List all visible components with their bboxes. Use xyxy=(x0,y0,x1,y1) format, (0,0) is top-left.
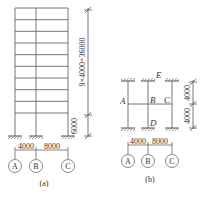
axis-label-b-A: A xyxy=(125,157,131,166)
structural-diagram: 9×4000=36000 6000 4000 8000 A B C (a) xyxy=(0,0,210,198)
height-label-b-lower: 4000 xyxy=(183,108,192,124)
span-label-a-2: 8000 xyxy=(44,142,60,151)
caption-a: (a) xyxy=(40,179,49,188)
axis-label-b-C: C xyxy=(169,157,174,166)
node-label-B: B xyxy=(150,95,156,105)
node-label-A: A xyxy=(119,96,126,106)
height-label-b-upper: 4000 xyxy=(183,85,192,101)
node-label-D: D xyxy=(149,118,157,128)
axis-label-b-B: B xyxy=(145,157,150,166)
axis-label-a-A: A xyxy=(12,162,18,171)
span-label-b-2: 8000 xyxy=(152,137,168,146)
upper-height-label-a: 9×4000=36000 xyxy=(78,37,87,86)
fixed-supports-a xyxy=(8,136,75,139)
caption-b: (b) xyxy=(145,175,155,184)
axis-label-a-B: B xyxy=(33,162,38,171)
node-label-E: E xyxy=(155,70,162,80)
axis-label-a-C: C xyxy=(65,162,70,171)
span-label-a-1: 4000 xyxy=(18,142,34,151)
lower-height-label-a: 6000 xyxy=(70,118,79,134)
node-label-C: C xyxy=(164,95,171,105)
frame-a xyxy=(15,8,68,136)
span-label-b-1: 4000 xyxy=(130,137,146,146)
